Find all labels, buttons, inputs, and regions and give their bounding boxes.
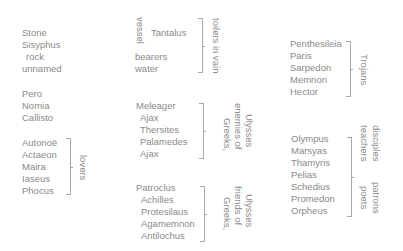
group-label-enemies-2: enemies of (233, 103, 244, 149)
label-phocus: Phocus (22, 185, 54, 197)
label-marsyas: Marsyas (291, 145, 327, 157)
label-sarpedon: Sarpedon (290, 62, 331, 74)
label-memnon: Memnon (290, 74, 327, 86)
label-autonoe: Autonoë (22, 137, 57, 149)
group-label-teachers: teachers (359, 125, 370, 161)
label-iaseus: Iaseus (22, 173, 50, 185)
group-label-patrons: patrons (371, 182, 382, 214)
label-thamyris: Thamyris (291, 157, 330, 169)
label-unnamed: unnamed (22, 63, 62, 75)
bracket-toilers (198, 18, 203, 73)
group-label-friends-3: Ulysses (244, 194, 255, 227)
group-label-friends-2: friends of (233, 186, 244, 225)
label-antilochus: Antilochus (141, 230, 185, 242)
bracket-lovers (66, 138, 71, 195)
group-label-trojans: Trojans (359, 54, 370, 85)
bracket-enemies (199, 103, 204, 159)
label-schedius: Schedius (291, 181, 330, 193)
label-agamemnon: Agamemnon (141, 218, 195, 230)
group-label-toilers: toilers in vain (211, 18, 222, 73)
group-label-poets: poets (359, 186, 370, 209)
label-rock: rock (26, 51, 44, 63)
group-label-enemies-3: Ulysses (244, 114, 255, 147)
label-ajax-1: Ajax (140, 112, 158, 124)
label-maira: Maira (22, 161, 46, 173)
label-olympus: Olympus (291, 133, 328, 145)
label-water: water (135, 63, 158, 75)
label-actaeon: Actaeon (22, 149, 57, 161)
label-orpheus: Orpheus (291, 205, 327, 217)
group-label-disciples: disciples (371, 125, 382, 161)
bracket-friends (200, 186, 205, 242)
bracket-trojans (346, 41, 351, 97)
label-vessel: vessel (135, 17, 146, 44)
label-bearers: bearers (135, 51, 167, 63)
label-palamedes: Palamedes (140, 136, 188, 148)
label-meleager: Meleager (136, 100, 176, 112)
label-callisto: Callisto (22, 112, 53, 124)
label-penthesileia: Penthesileia (290, 38, 342, 50)
label-paris: Paris (290, 50, 312, 62)
label-promedon: Promedon (291, 193, 335, 205)
label-protesilaus: Protesilaus (141, 206, 188, 218)
group-label-enemies-1: Greeks, (222, 118, 233, 151)
group-label-lovers: lovers (78, 155, 89, 180)
label-achilles: Achilles (141, 194, 174, 206)
label-sisyphus: Sisyphus (22, 39, 61, 51)
label-pelias: Pelias (291, 169, 317, 181)
label-pero: Pero (22, 88, 42, 100)
group-label-friends-1: Greeks, (222, 197, 233, 230)
label-patroclus: Patroclus (136, 182, 176, 194)
bracket-poets (347, 137, 352, 217)
label-stone: Stone (22, 27, 47, 39)
label-hector: Hector (290, 86, 318, 98)
label-ajax-2: Ajax (140, 148, 158, 160)
label-nomia: Nomia (22, 100, 49, 112)
label-thersites: Thersites (140, 124, 179, 136)
label-tantalus: Tantalus (151, 27, 186, 39)
